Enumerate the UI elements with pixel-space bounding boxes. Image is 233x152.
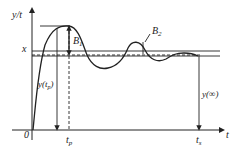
origin-label: 0: [24, 129, 29, 140]
b2-label: B2: [152, 25, 162, 38]
x-axis-label: t: [226, 129, 229, 140]
b2-leader: [145, 34, 150, 42]
step-response-diagram: y/t x 0 t B1 B2 y(tp) y(∞) tp ts: [0, 0, 233, 152]
settling-time-label: ts: [196, 134, 202, 147]
peak-time-label: tp: [66, 134, 73, 147]
steady-level-label: x: [21, 43, 27, 54]
final-value-label: y(∞): [201, 89, 218, 99]
peak-value-label: y(tp): [37, 79, 54, 90]
y-axis-label: y/t: [11, 9, 22, 20]
response-curve: [33, 26, 198, 130]
b1-label: B1: [73, 35, 83, 48]
